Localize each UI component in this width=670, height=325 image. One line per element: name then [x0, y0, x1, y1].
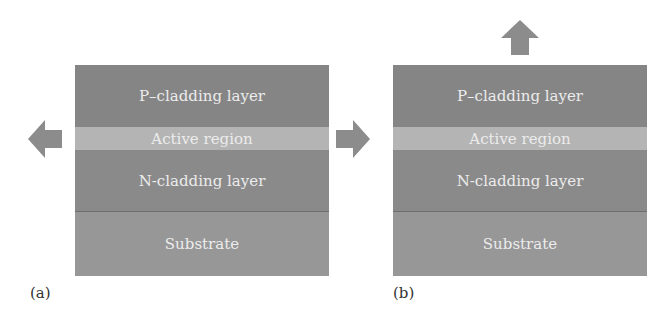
panel-b-surface-emitter: P–cladding layer Active region N-claddin…: [393, 65, 647, 276]
arrow-up-icon: [500, 20, 540, 56]
active-region: Active region: [75, 127, 329, 150]
p-cladding-layer: P–cladding layer: [75, 65, 329, 127]
active-region: Active region: [393, 127, 647, 150]
substrate-layer: Substrate: [393, 212, 647, 276]
panel-a-edge-emitter: P–cladding layer Active region N-claddin…: [75, 65, 329, 276]
arrow-left-icon: [28, 118, 64, 160]
caption-b: (b): [393, 284, 414, 302]
n-cladding-layer: N-cladding layer: [393, 150, 647, 212]
caption-a: (a): [30, 284, 51, 302]
arrow-right-icon: [336, 118, 372, 160]
p-cladding-layer: P–cladding layer: [393, 65, 647, 127]
n-cladding-layer: N-cladding layer: [75, 150, 329, 212]
substrate-layer: Substrate: [75, 212, 329, 276]
